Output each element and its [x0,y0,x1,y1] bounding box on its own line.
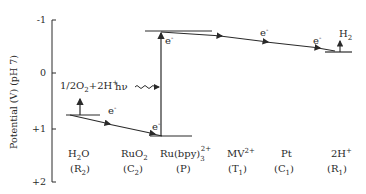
electron-label-4: e- [260,26,269,38]
hydrogen-label: H2 [339,28,352,42]
photo-excitation: hν e- [115,31,212,136]
tick-minus1: -1 [37,14,46,25]
species-ru-bpy-code: (P) [176,163,191,174]
species-h2o: H2O [68,148,89,162]
photon-label: hν [115,81,128,92]
species-mv: MV2+ [227,147,255,159]
species-2h: 2H+ [331,147,352,159]
species-ru-bpy: Ru(bpy)32+ [160,145,211,163]
oxygen-reaction-label: 1/2O2+2H+ [60,79,118,94]
species-h2o-code: (R2) [70,163,90,177]
electron-label-3: e- [165,34,174,46]
species-pt: Pt [281,148,292,159]
species-labels: H2O (R2) RuO2 (C2) Ru(bpy)32+ (P) MV2+ (… [68,145,352,177]
species-ruo2: RuO2 [121,148,148,162]
tick-plus2: +2 [32,176,46,187]
tick-plus1: +1 [32,123,46,134]
photon-wave-icon [135,86,155,89]
electron-label-5: e- [313,34,322,46]
species-mv-code: (T1) [228,163,247,177]
energy-diagram: -1 0 +1 +2 Potential (V) (pH 7) 1/2O2+2H… [0,0,366,194]
reduction-side: e- e- H2 [161,26,352,52]
electron-arrow-2 [108,124,155,134]
species-ruo2-code: (C2) [123,163,143,177]
y-axis: -1 0 +1 +2 Potential (V) (pH 7) [8,14,56,187]
species-2h-code: (R1) [327,163,347,177]
electron-arrow-1 [70,115,110,124]
electron-label-2: e- [152,120,161,132]
tick-0: 0 [40,67,46,78]
electron-arrow-5 [266,42,320,48]
species-pt-code: (C1) [274,163,294,177]
electron-label-1: e- [108,104,117,116]
y-axis-label: Potential (V) (pH 7) [8,55,19,149]
